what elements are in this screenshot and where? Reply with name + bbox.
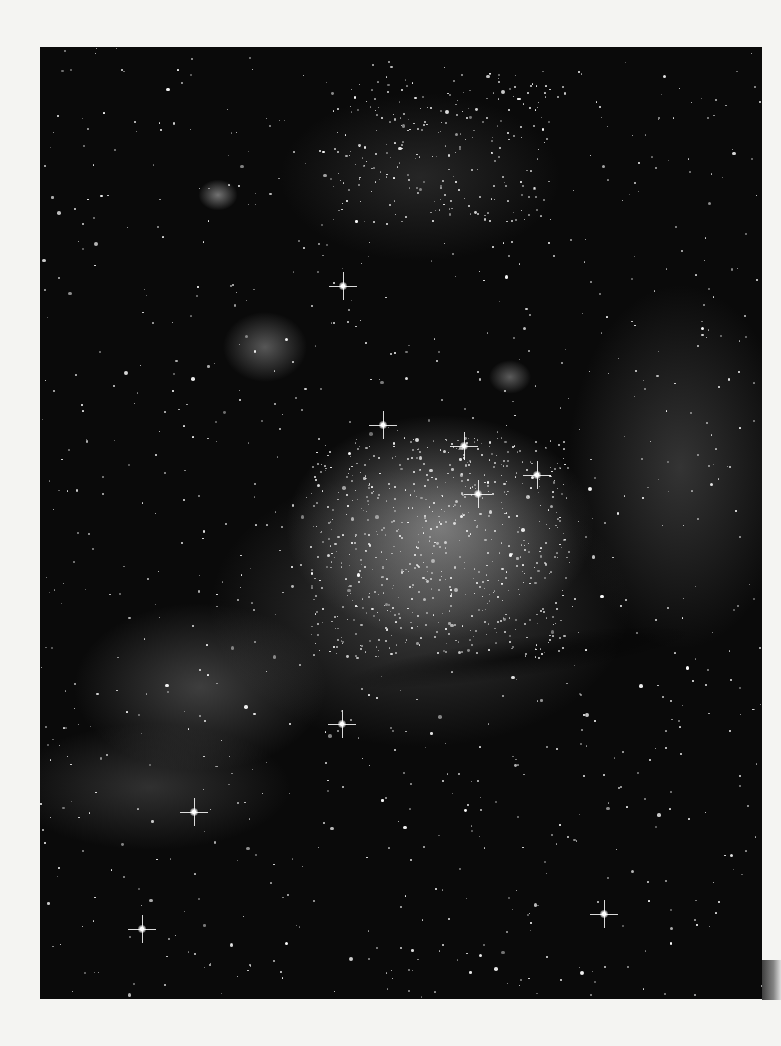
star bbox=[580, 971, 584, 975]
star bbox=[494, 628, 495, 629]
star bbox=[519, 985, 520, 986]
star bbox=[486, 574, 487, 575]
star bbox=[578, 71, 580, 73]
star bbox=[320, 532, 321, 533]
star bbox=[127, 227, 128, 228]
star bbox=[106, 754, 108, 756]
star bbox=[366, 857, 368, 859]
star bbox=[447, 773, 448, 774]
star bbox=[140, 365, 141, 366]
star bbox=[313, 654, 315, 656]
star bbox=[592, 555, 595, 558]
star bbox=[410, 859, 411, 860]
star bbox=[222, 581, 224, 583]
star bbox=[119, 593, 120, 594]
star bbox=[181, 542, 183, 544]
star bbox=[453, 522, 456, 525]
star bbox=[57, 876, 59, 878]
star bbox=[655, 619, 657, 621]
star bbox=[546, 746, 548, 748]
star bbox=[381, 117, 383, 119]
star bbox=[507, 983, 508, 984]
star bbox=[711, 173, 713, 175]
star bbox=[381, 529, 383, 531]
star bbox=[494, 481, 496, 483]
star bbox=[414, 97, 416, 99]
star bbox=[158, 571, 159, 572]
star bbox=[336, 646, 338, 648]
star bbox=[254, 496, 256, 498]
star bbox=[469, 116, 472, 119]
star bbox=[674, 652, 676, 654]
star bbox=[491, 140, 494, 143]
star bbox=[454, 624, 456, 626]
star bbox=[96, 48, 97, 49]
star bbox=[442, 180, 444, 182]
star bbox=[317, 463, 318, 464]
star bbox=[739, 687, 741, 689]
star bbox=[499, 147, 501, 149]
star bbox=[468, 535, 470, 537]
star bbox=[378, 656, 379, 657]
star bbox=[368, 694, 370, 696]
star bbox=[320, 388, 322, 390]
star bbox=[501, 475, 502, 476]
star bbox=[701, 327, 705, 331]
star bbox=[459, 458, 462, 461]
star bbox=[387, 988, 389, 990]
star bbox=[325, 445, 326, 446]
star bbox=[253, 609, 255, 611]
star bbox=[199, 715, 201, 717]
star bbox=[423, 463, 425, 465]
star bbox=[550, 467, 551, 468]
star bbox=[44, 842, 46, 844]
star bbox=[160, 129, 162, 131]
star bbox=[360, 624, 362, 626]
star bbox=[368, 485, 370, 487]
star bbox=[484, 218, 486, 220]
star bbox=[266, 671, 267, 672]
star bbox=[541, 653, 543, 655]
star bbox=[94, 972, 95, 973]
star bbox=[592, 518, 593, 519]
star bbox=[449, 464, 450, 465]
star bbox=[597, 901, 599, 903]
star bbox=[300, 564, 302, 566]
star bbox=[535, 450, 537, 452]
star bbox=[376, 697, 378, 699]
star bbox=[424, 517, 425, 518]
star bbox=[455, 640, 456, 641]
star bbox=[730, 679, 732, 681]
star bbox=[365, 342, 367, 344]
star bbox=[567, 467, 569, 469]
star bbox=[86, 440, 89, 443]
star bbox=[491, 152, 493, 154]
star bbox=[584, 261, 585, 262]
star bbox=[530, 85, 531, 86]
star bbox=[412, 587, 413, 588]
star bbox=[270, 882, 272, 884]
star bbox=[164, 472, 165, 473]
star bbox=[556, 512, 557, 513]
star bbox=[502, 508, 504, 510]
star bbox=[421, 996, 422, 997]
star bbox=[620, 605, 622, 607]
star bbox=[216, 441, 217, 442]
star bbox=[574, 665, 575, 666]
star bbox=[680, 753, 682, 755]
star bbox=[413, 471, 415, 473]
star bbox=[579, 967, 580, 968]
star bbox=[372, 64, 374, 66]
star bbox=[588, 487, 592, 491]
star bbox=[372, 608, 374, 610]
star bbox=[191, 377, 195, 381]
star bbox=[341, 562, 343, 564]
star bbox=[502, 176, 504, 178]
star bbox=[348, 452, 351, 455]
star bbox=[295, 397, 297, 399]
star bbox=[473, 130, 475, 132]
star bbox=[410, 494, 411, 495]
star bbox=[347, 595, 348, 596]
star bbox=[564, 539, 565, 540]
star bbox=[404, 437, 406, 439]
